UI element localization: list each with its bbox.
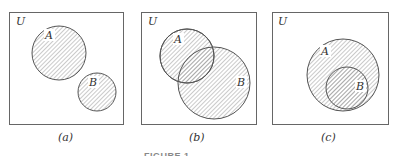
universe-label: U [16, 15, 26, 28]
venn-diagram-figure: U A B (a) U A B (b) U A B (c) FIGURE 1- [0, 0, 399, 156]
set-a-label: A [320, 45, 329, 58]
universe-label: U [148, 15, 158, 28]
figure-caption: FIGURE 1- [144, 151, 193, 156]
set-a-circle [32, 26, 86, 80]
universe-label: U [278, 15, 288, 28]
panel-caption: (c) [321, 131, 336, 144]
set-a-label: A [173, 33, 182, 46]
venn-panel-c: U A B (c) [273, 13, 389, 145]
set-b-label: B [236, 76, 245, 89]
set-b-label: B [355, 80, 364, 93]
venn-panel-b: U A B (b) [142, 13, 257, 145]
panel-caption: (b) [189, 131, 205, 144]
venn-panel-a: U A B (a) [10, 13, 124, 145]
set-a-label: A [44, 29, 53, 42]
panel-caption: (a) [58, 131, 73, 144]
set-b-label: B [88, 76, 97, 89]
